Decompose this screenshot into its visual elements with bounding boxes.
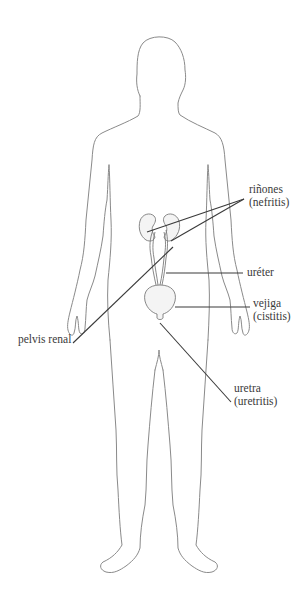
bladder: [145, 285, 176, 320]
label-renal-pelvis: pelvis renal: [18, 333, 71, 346]
urinary-organs: [139, 214, 179, 320]
label-bladder-name: vejiga: [253, 297, 291, 310]
label-kidneys-name: riñones: [249, 183, 289, 196]
label-bladder-condition: (cistitis): [253, 310, 291, 323]
label-urethra-condition: (uretritis): [234, 395, 277, 408]
leader-urethra: [160, 323, 231, 402]
label-ureter: uréter: [247, 266, 274, 279]
ureter-left-2: [153, 232, 158, 285]
label-renal-pelvis-name: pelvis renal: [18, 333, 71, 346]
label-kidneys-condition: (nefritis): [249, 196, 289, 209]
label-bladder: vejiga (cistitis): [253, 297, 291, 323]
label-urethra-name: uretra: [234, 382, 277, 395]
label-urethra: uretra (uretritis): [234, 382, 277, 408]
label-kidneys: riñones (nefritis): [249, 183, 289, 209]
kidney-left: [139, 214, 155, 241]
label-ureter-name: uréter: [247, 266, 274, 279]
